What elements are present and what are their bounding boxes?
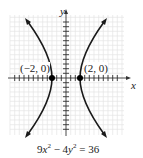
left-vertex-point xyxy=(49,75,55,81)
right-vertex-point xyxy=(77,75,83,81)
equation-label: 9x2 − 4y2 = 36 xyxy=(37,142,99,155)
hyperbola-graph xyxy=(0,0,143,158)
left-vertex-label: (−2, 0) xyxy=(20,62,50,74)
right-vertex-label: (2, 0) xyxy=(84,62,108,74)
grid xyxy=(10,15,124,135)
x-axis-label: x xyxy=(131,79,136,91)
y-axis-label: y xyxy=(60,5,65,17)
